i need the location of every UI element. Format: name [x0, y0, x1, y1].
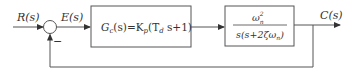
output-label: C(s) [320, 9, 343, 22]
block-diagram: R(s) − E(s) Gc(s)=Kp(Td s+1) ωn2 s(s+2ζω… [0, 0, 352, 75]
error-label: E(s) [60, 11, 83, 24]
plant-denominator: s(s+2ζωn) [236, 29, 284, 41]
input-label: R(s) [16, 11, 40, 24]
plant-numerator: ωn2 [252, 10, 264, 25]
minus-sign: − [53, 35, 62, 48]
summing-junction [44, 21, 57, 34]
controller-transfer-function: Gc(s)=Kp(Td s+1) [101, 21, 192, 35]
